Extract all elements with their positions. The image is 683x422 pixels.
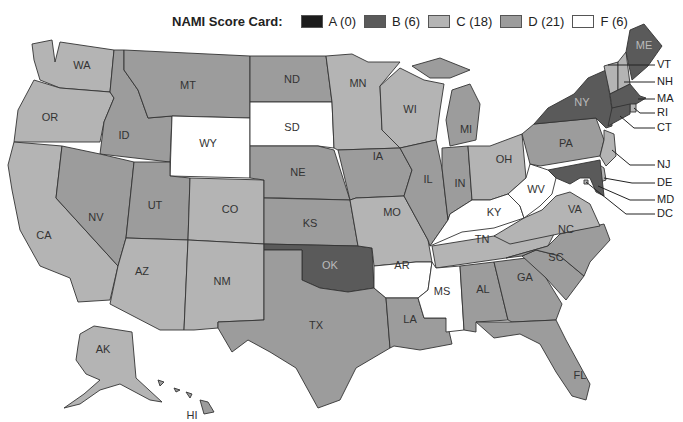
- state-HI-3[interactable]: [174, 388, 180, 392]
- state-label-GA: GA: [517, 271, 534, 283]
- state-AK[interactable]: [64, 326, 162, 408]
- callout-labels: VTNHMARICTNJDEMDDC: [657, 58, 674, 219]
- callout-label-MD: MD: [657, 193, 674, 205]
- state-label-NV: NV: [88, 211, 104, 223]
- state-label-AZ: AZ: [135, 265, 149, 277]
- state-label-CO: CO: [222, 203, 239, 215]
- state-label-AR: AR: [394, 259, 409, 271]
- state-MI-upper[interactable]: [412, 58, 470, 78]
- state-label-ND: ND: [284, 73, 300, 85]
- state-label-WI: WI: [403, 103, 416, 115]
- state-HI[interactable]: [200, 400, 214, 414]
- state-label-FL: FL: [574, 369, 587, 381]
- state-label-OR: OR: [42, 111, 59, 123]
- callout-label-RI: RI: [657, 106, 668, 118]
- state-label-UT: UT: [148, 199, 163, 211]
- us-map: VTNHMARICTNJDEMDDC WAORCAIDNVMTWYUTAZCON…: [0, 0, 683, 422]
- state-MI[interactable]: [446, 84, 480, 146]
- state-label-TX: TX: [309, 319, 324, 331]
- callout-label-MA: MA: [657, 92, 674, 104]
- state-label-WA: WA: [73, 59, 91, 71]
- callout-label-CT: CT: [657, 121, 672, 133]
- state-label-LA: LA: [403, 313, 417, 325]
- state-label-IN: IN: [455, 177, 466, 189]
- state-label-KS: KS: [303, 217, 318, 229]
- state-MD[interactable]: [548, 160, 604, 196]
- state-label-ID: ID: [119, 129, 130, 141]
- state-label-MI: MI: [460, 123, 472, 135]
- state-label-NY: NY: [574, 96, 590, 108]
- state-label-MS: MS: [434, 285, 451, 297]
- state-label-IL: IL: [423, 173, 432, 185]
- callout-label-DC: DC: [657, 207, 673, 219]
- state-label-HI: HI: [187, 409, 198, 421]
- state-AZ[interactable]: [110, 238, 188, 330]
- state-ME[interactable]: [626, 24, 662, 80]
- state-label-VA: VA: [568, 203, 583, 215]
- state-label-WY: WY: [199, 137, 217, 149]
- state-label-OK: OK: [322, 259, 339, 271]
- callout-label-VT: VT: [657, 58, 671, 70]
- state-label-AK: AK: [96, 343, 111, 355]
- state-label-AL: AL: [476, 283, 489, 295]
- state-label-NC: NC: [558, 223, 574, 235]
- state-RI[interactable]: [630, 104, 636, 112]
- state-label-CA: CA: [36, 229, 52, 241]
- state-label-TN: TN: [475, 233, 490, 245]
- state-label-MN: MN: [349, 77, 366, 89]
- state-NY[interactable]: [534, 70, 612, 128]
- state-label-PA: PA: [559, 137, 574, 149]
- state-HI-2[interactable]: [186, 392, 192, 398]
- state-label-NM: NM: [213, 275, 230, 287]
- state-label-MT: MT: [180, 79, 196, 91]
- state-label-IA: IA: [373, 150, 384, 162]
- state-label-NE: NE: [290, 166, 305, 178]
- callout-label-NH: NH: [657, 75, 673, 87]
- state-label-SC: SC: [548, 251, 563, 263]
- state-label-WV: WV: [527, 183, 545, 195]
- state-HI-4[interactable]: [158, 380, 164, 386]
- state-label-ME: ME: [636, 39, 653, 51]
- callout-label-DE: DE: [657, 176, 672, 188]
- state-label-SD: SD: [284, 121, 299, 133]
- state-label-OH: OH: [496, 153, 513, 165]
- callout-label-NJ: NJ: [657, 158, 670, 170]
- state-FL[interactable]: [476, 320, 590, 400]
- state-label-KY: KY: [487, 206, 502, 218]
- state-label-MO: MO: [383, 206, 401, 218]
